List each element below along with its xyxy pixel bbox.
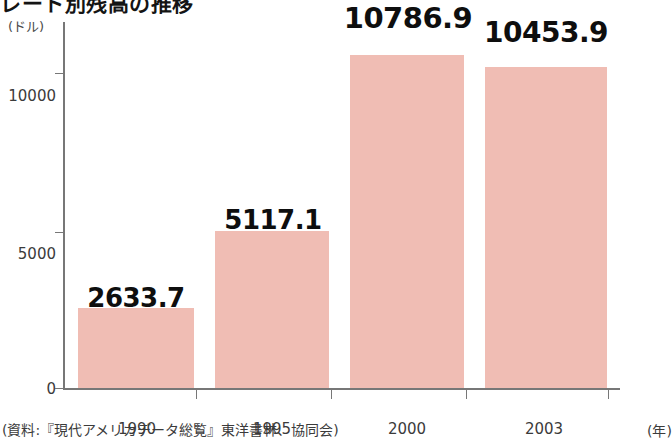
y-axis-line xyxy=(63,22,65,390)
x-axis-tick-1 xyxy=(196,390,197,399)
y-axis-tick-5000 xyxy=(55,232,64,233)
bar-1995[interactable] xyxy=(215,231,329,388)
x-axis-unit-label: (年) xyxy=(647,420,672,440)
x-axis-tick-4 xyxy=(608,390,609,399)
y-tick-label-5000: 5000 xyxy=(18,245,56,263)
y-tick-label-10000: 10000 xyxy=(8,87,56,105)
value-label-2000: 10786.9 xyxy=(330,1,486,35)
source-note: (資料:『現代アメリカデータ総覧』東洋書林、協同会) xyxy=(2,419,339,439)
x-tick-label-2003: 2003 xyxy=(510,420,578,438)
y-axis-tick-10000 xyxy=(55,73,64,74)
x-tick-label-2000: 2000 xyxy=(373,420,441,438)
x-axis-tick-3 xyxy=(466,390,467,399)
chart-title: レート別残高の推移 xyxy=(0,0,194,17)
plot-area: 2633.7 5117.1 10786.9 10453.9 1990 1995 … xyxy=(63,22,620,390)
y-axis-tick-0 xyxy=(55,388,64,389)
value-label-1990: 2633.7 xyxy=(69,283,203,313)
y-axis-tick-labels: 10000 5000 0 xyxy=(0,22,56,390)
bar-2000[interactable] xyxy=(350,55,464,388)
x-axis-tick-2 xyxy=(331,390,332,399)
y-tick-label-0: 0 xyxy=(46,380,56,398)
bar-1990[interactable] xyxy=(78,308,194,388)
bar-2003[interactable] xyxy=(485,67,607,388)
value-label-2003: 10453.9 xyxy=(470,16,622,49)
x-axis-line xyxy=(63,388,620,390)
value-label-1995: 5117.1 xyxy=(206,205,340,235)
